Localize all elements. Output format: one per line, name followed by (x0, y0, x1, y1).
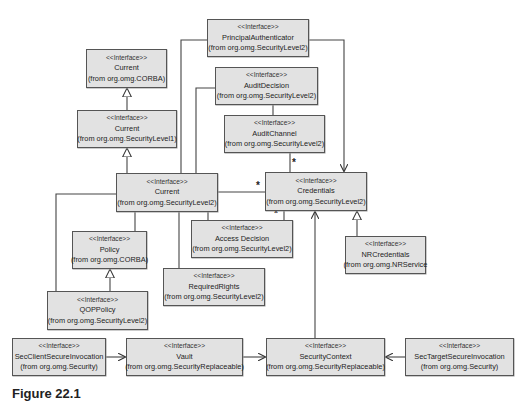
class-required-rights: <<Interface>> RequiredRights (from org.o… (163, 268, 265, 306)
class-package: (from org.omg.SecurityLevel2) (48, 316, 147, 327)
class-package: (from org.omg.SecurityLevel2) (225, 139, 324, 150)
class-package: (from org.omg.SecurityLevel2) (117, 198, 216, 209)
class-name: Vault (176, 352, 192, 363)
class-package: (from org.omg.CORBA) (88, 74, 165, 85)
class-name: Current (155, 187, 180, 198)
class-name: Access Decision (215, 234, 269, 245)
class-name: Policy (100, 245, 120, 256)
class-package: (from org.omg.SecurityLevel2) (192, 244, 291, 255)
class-package: (from org.omg.SecurityReplaceable) (125, 362, 244, 373)
class-package: (from org.omg.Security) (421, 362, 499, 373)
stereotype-label: <<Interface>> (193, 271, 234, 282)
stereotype-label: <<Interface>> (254, 118, 295, 129)
stereotype-label: <<Interface>> (89, 234, 130, 245)
stereotype-label: <<Interface>> (221, 223, 262, 234)
stereotype-label: <<Interface>> (295, 176, 336, 187)
multiplicity-audit-channel: * (292, 157, 296, 168)
class-package: (from org.omg.SecurityLevel2) (164, 292, 263, 303)
multiplicity-current: * (256, 180, 260, 191)
class-security-context: <<Interface>> SecurityContext (from org.… (266, 338, 385, 376)
class-name: SecClientSecureInvocation (15, 352, 104, 363)
class-current-sl1: <<Interface>> Current (from org.omg.Secu… (77, 110, 177, 148)
class-name: Current (114, 63, 139, 74)
stereotype-label: <<Interface>> (106, 113, 147, 124)
class-name: NRCredentials (361, 250, 409, 261)
stereotype-label: <<Interface>> (77, 295, 118, 306)
class-name: SecTargetSecureInvocation (414, 352, 504, 363)
class-nr-credentials: <<Interface>> NRCredentials (from org.om… (345, 236, 426, 274)
class-package: (from org.omg.CORBA) (71, 255, 148, 266)
stereotype-label: <<Interface>> (106, 53, 147, 64)
class-package: (from org.omg.Security) (20, 362, 98, 373)
class-principal-authenticator: <<Interface>> PrincipalAuthenticator (fr… (207, 19, 309, 57)
class-name: QOPPolicy (79, 305, 115, 316)
class-package: (from org.omg.NRService (344, 260, 428, 271)
class-name: AuditChannel (252, 129, 296, 140)
class-current-sl2: <<Interface>> Current (from org.omg.Secu… (116, 173, 218, 212)
class-access-decision: <<Interface>> Access Decision (from org.… (191, 220, 293, 258)
class-name: AuditDecision (244, 81, 289, 92)
class-package: (from org.omg.SecurityLevel2) (266, 197, 365, 208)
class-name: SecurityContext (299, 352, 351, 363)
class-name: Current (115, 124, 140, 135)
class-credentials: <<Interface>> Credentials (from org.omg.… (265, 172, 367, 211)
stereotype-label: <<Interface>> (237, 22, 278, 33)
class-vault: <<Interface>> Vault (from org.omg.Securi… (126, 338, 243, 376)
class-audit-decision: <<Interface>> AuditDecision (from org.om… (215, 67, 318, 105)
class-name: PrincipalAuthenticator (222, 33, 294, 44)
stereotype-label: <<Interface>> (246, 70, 287, 81)
stereotype-label: <<Interface>> (164, 341, 205, 352)
class-sec-target-secure-invocation: <<Interface>> SecTargetSecureInvocation … (405, 338, 514, 376)
class-package: (from org.omg.SecurityLevel2) (217, 91, 316, 102)
class-package: (from org.omg.SecurityLevel1) (77, 134, 176, 145)
stereotype-label: <<Interface>> (305, 341, 346, 352)
stereotype-label: <<Interface>> (38, 341, 79, 352)
class-package: (from org.omg.SecurityReplaceable) (266, 362, 385, 373)
class-qop-policy: <<Interface>> QOPPolicy (from org.omg.Se… (47, 291, 148, 330)
stereotype-label: <<Interface>> (365, 239, 406, 250)
class-current-corba: <<Interface>> Current (from org.omg.CORB… (86, 49, 167, 88)
class-name: Credentials (297, 186, 334, 197)
class-policy: <<Interface>> Policy (from org.omg.CORBA… (72, 231, 147, 269)
figure-caption: Figure 22.1 (12, 386, 81, 401)
class-audit-channel: <<Interface>> AuditChannel (from org.omg… (224, 115, 325, 153)
class-sec-client-secure-invocation: <<Interface>> SecClientSecureInvocation … (12, 338, 106, 376)
stereotype-label: <<Interface>> (146, 177, 187, 188)
stereotype-label: <<Interface>> (439, 341, 480, 352)
class-package: (from org.omg.SecurityLevel2) (208, 43, 307, 54)
class-name: RequiredRights (189, 282, 240, 293)
